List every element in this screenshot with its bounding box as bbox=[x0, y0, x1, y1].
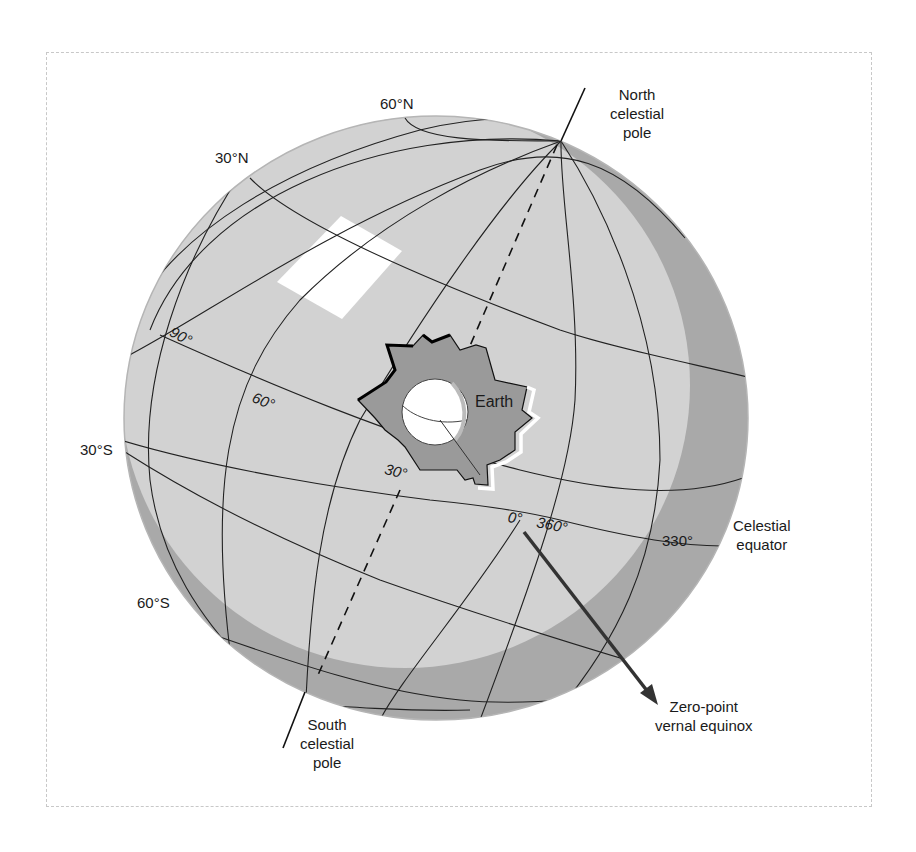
dec-label-60n: 60°N bbox=[380, 94, 414, 113]
south-pole-label: South celestial pole bbox=[300, 715, 354, 772]
ra-label-330: 330° bbox=[662, 531, 693, 550]
dec-label-60s: 60°S bbox=[137, 593, 170, 612]
dec-label-30n: 30°N bbox=[215, 148, 249, 167]
earth-label: Earth bbox=[475, 393, 513, 411]
ra-label-0: 0° bbox=[507, 508, 524, 527]
north-pole-label: North celestial pole bbox=[610, 85, 664, 142]
axis-north-solid bbox=[561, 88, 585, 141]
celestial-sphere bbox=[0, 0, 916, 852]
dec-label-30s: 30°S bbox=[80, 440, 113, 459]
celestial-equator-label: Celestial equator bbox=[733, 516, 791, 554]
vernal-equinox-label: Zero-point vernal equinox bbox=[655, 697, 753, 735]
